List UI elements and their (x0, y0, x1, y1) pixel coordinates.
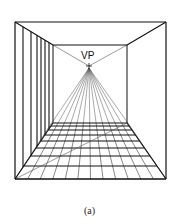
corner-line (15, 22, 53, 45)
vanishing-point-label: VP (81, 50, 94, 61)
vp-ray-line (64, 68, 89, 123)
floor-ray-line (90, 123, 91, 179)
floor-diagonal-line (15, 123, 127, 179)
corner-line (127, 123, 166, 179)
vp-ray-line (89, 68, 121, 123)
vp-ray-line (89, 68, 102, 123)
floor-ray-line (96, 123, 103, 179)
floor-ray-line (121, 123, 153, 179)
corner-line (15, 123, 53, 179)
vp-ray-line (89, 68, 109, 123)
corner-line (127, 22, 166, 45)
one-point-perspective-diagram (0, 0, 174, 224)
floor-ray-line (78, 123, 83, 179)
floor-ray-line (53, 123, 71, 179)
vp-ray-line (77, 68, 89, 123)
ceiling-to-vp-line (89, 45, 127, 66)
floor-ray-line (109, 123, 128, 179)
figure-caption: (a) (84, 205, 95, 216)
vp-ray-line (52, 68, 89, 123)
floor-ray-line (102, 123, 115, 179)
vp-ray-line (89, 68, 90, 123)
floor-ray-line (40, 123, 64, 179)
vp-ray-line (89, 68, 115, 123)
floor-ray-line (115, 123, 141, 179)
